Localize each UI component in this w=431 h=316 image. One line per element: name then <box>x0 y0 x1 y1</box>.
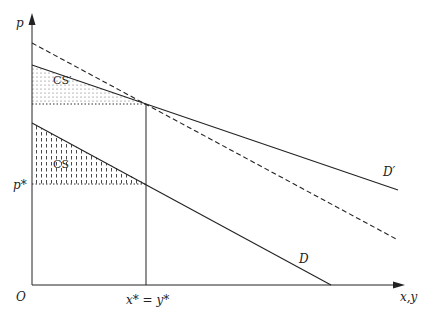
x-axis-arrow-icon <box>393 282 405 289</box>
cs-shifted-label: CS′ <box>53 74 72 87</box>
demand-label-d-prime: D′ <box>382 165 396 179</box>
x-star-label: x* = y* <box>126 293 169 307</box>
demand-line-d <box>32 123 331 285</box>
dashed-demand-line <box>32 43 398 240</box>
origin-label: O <box>16 290 26 304</box>
cs-label: CS <box>53 158 69 171</box>
diagram-canvas: p O x,y p* x* = y* D D′ CS′ CS <box>0 0 431 316</box>
y-axis-arrow-icon <box>29 13 36 25</box>
x-axis-label: x,y <box>400 290 418 304</box>
p-star-label: p* <box>13 178 27 192</box>
y-axis-label: p <box>16 16 24 30</box>
demand-label-d: D <box>298 252 309 266</box>
